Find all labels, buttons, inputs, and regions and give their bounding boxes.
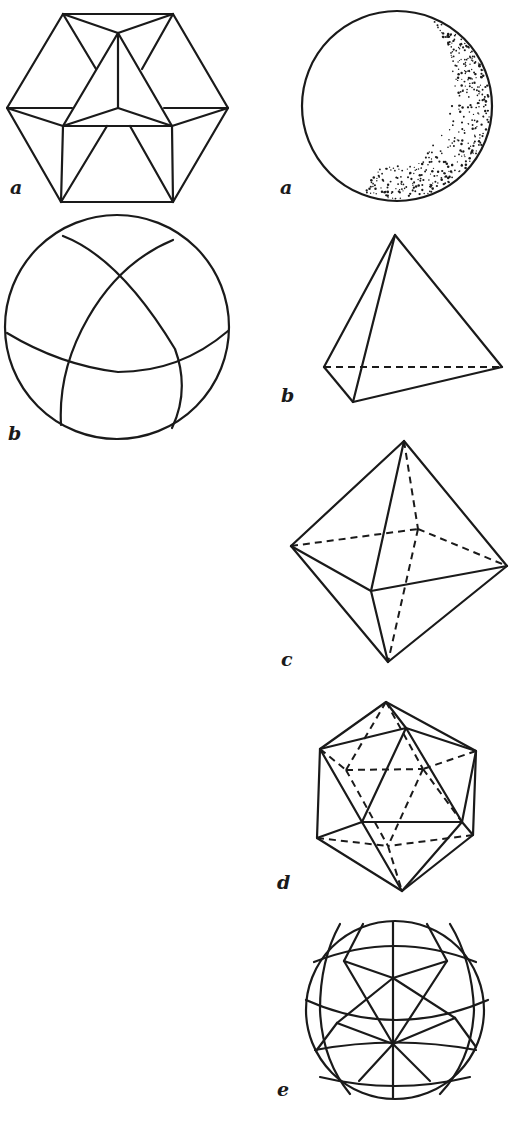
illustration-canvas: [0, 0, 526, 1126]
geodesic-sphere-figure: [306, 921, 488, 1099]
tetrahedron-figure: [324, 235, 502, 402]
figure-label-left-a: a: [10, 178, 22, 197]
octahedron-figure: [291, 441, 507, 662]
spherical-cuboctahedron-figure: [5, 215, 229, 439]
icosahedron-figure: [317, 702, 476, 891]
figure-label-left-b: b: [8, 424, 21, 443]
figure-label-right-a: a: [280, 178, 292, 197]
figure-label-right-e: e: [277, 1080, 289, 1099]
figure-label-right-b: b: [281, 386, 294, 405]
cuboctahedron-figure: [7, 14, 228, 202]
figure-label-right-c: c: [281, 650, 293, 669]
dotted-sphere-figure: [302, 11, 492, 201]
figure-label-right-d: d: [277, 873, 290, 892]
